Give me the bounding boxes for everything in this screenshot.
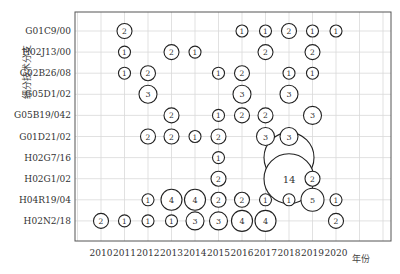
- data-bubble: 1: [307, 67, 319, 79]
- y-tick-label: G01D21/02: [19, 132, 71, 142]
- data-bubble: 1: [213, 67, 225, 79]
- data-bubble: 1: [283, 67, 295, 79]
- data-bubble: 3: [139, 85, 157, 103]
- x-axis-ticks: 2010201120122013201420152016201720182019…: [90, 248, 348, 258]
- y-tick-label: G01C9/00: [25, 26, 71, 36]
- bubble-value: 2: [263, 48, 268, 57]
- data-bubble: 2: [235, 192, 250, 207]
- data-bubble: 2: [305, 45, 320, 60]
- bubble-value: 3: [192, 217, 197, 226]
- data-bubble: 4: [232, 210, 253, 231]
- data-bubble: 1: [142, 194, 154, 206]
- x-tick-label: 2010: [90, 248, 113, 258]
- data-bubble: 2: [235, 66, 250, 81]
- bubble-value: 1: [334, 196, 339, 205]
- bubble-value: 4: [169, 196, 174, 205]
- bubble-value: 14: [283, 174, 296, 185]
- x-tick-label: 2013: [160, 248, 183, 258]
- data-bubble: 2: [141, 129, 156, 144]
- data-bubble: 1: [166, 215, 178, 227]
- data-bubble: 2: [282, 24, 297, 39]
- bubble-value: 3: [145, 90, 150, 99]
- bubble-value: 1: [122, 217, 127, 226]
- bubble-value: 2: [216, 175, 221, 184]
- bubble-value: 1: [122, 48, 127, 57]
- bubble-value: 4: [263, 217, 268, 226]
- bubble-value: 2: [169, 133, 174, 142]
- bubble-value: 2: [240, 111, 245, 120]
- bubble-value: 1: [310, 69, 315, 78]
- data-bubble: 4: [185, 189, 206, 210]
- x-tick-label: 2020: [325, 248, 348, 258]
- data-bubble: 5: [301, 188, 324, 211]
- bubble-value: 1: [216, 154, 221, 163]
- bubble-value: 2: [99, 217, 104, 226]
- bubble-value: 3: [239, 90, 244, 99]
- x-axis-label: 年份: [352, 253, 370, 264]
- bubble-value: 2: [240, 196, 245, 205]
- data-bubble: 2: [141, 66, 156, 81]
- bubble-value: 4: [192, 196, 197, 205]
- bubble-value: 5: [310, 196, 315, 205]
- bubble-chart: G01C9/00H02J13/00G02B26/08G05D1/02G05B19…: [0, 0, 400, 274]
- bubble-value: 2: [146, 69, 151, 78]
- data-bubble: 2: [211, 129, 226, 144]
- bubble-value: 2: [216, 133, 221, 142]
- x-tick-label: 2016: [231, 248, 254, 258]
- data-bubble: 1: [213, 109, 225, 121]
- bubble-value: 1: [169, 217, 174, 226]
- bubble-value: 1: [146, 196, 151, 205]
- bubble-value: 1: [216, 111, 221, 120]
- bubble-value: 1: [193, 48, 198, 57]
- bubble-value: 2: [240, 69, 245, 78]
- data-bubble: 1: [189, 131, 201, 143]
- bubble-value: 4: [239, 217, 244, 226]
- x-tick-label: 2017: [254, 248, 277, 258]
- data-bubble: 1: [330, 194, 342, 206]
- data-bubble: 2: [329, 213, 344, 228]
- bubble-value: 1: [310, 27, 315, 36]
- data-bubble: 1: [142, 215, 154, 227]
- bubble-value: 1: [263, 27, 268, 36]
- data-bubble: 2: [164, 45, 179, 60]
- bubble-value: 2: [146, 133, 151, 142]
- data-bubble: 2: [305, 171, 320, 186]
- data-bubble: 1: [236, 25, 248, 37]
- bubble-value: 2: [169, 48, 174, 57]
- x-tick-label: 2012: [137, 248, 160, 258]
- y-tick-label: H02G1/02: [24, 174, 71, 184]
- y-axis-label: 细分技术分支: [21, 45, 32, 99]
- data-bubble: 2: [164, 108, 179, 123]
- data-bubble: 2: [258, 108, 273, 123]
- data-bubble: 3: [210, 212, 228, 230]
- y-tick-label: H02G7/16: [24, 153, 71, 163]
- data-bubble: 2: [94, 213, 109, 228]
- data-bubble: 2: [211, 192, 226, 207]
- y-tick-label: H02N2/18: [24, 216, 72, 226]
- x-tick-label: 2019: [301, 248, 324, 258]
- bubble-value: 1: [216, 69, 221, 78]
- data-bubble: 3: [233, 85, 251, 103]
- data-bubble: 1: [213, 152, 225, 164]
- data-bubble: 1: [260, 25, 272, 37]
- data-bubble: 2: [117, 24, 132, 39]
- bubble-value: 2: [334, 217, 339, 226]
- data-bubble: 3: [257, 128, 275, 146]
- data-bubble: 1: [119, 215, 131, 227]
- bubble-value: 2: [310, 175, 315, 184]
- bubble-value: 3: [263, 133, 268, 142]
- bubble-value: 2: [122, 27, 127, 36]
- bubble-value: 1: [263, 196, 268, 205]
- bubble-value: 2: [169, 111, 174, 120]
- data-bubble: 3: [280, 128, 298, 146]
- data-bubble: 4: [161, 189, 182, 210]
- data-bubble: 1: [283, 194, 295, 206]
- bubble-value: 1: [122, 69, 127, 78]
- data-bubble: 1: [189, 46, 201, 58]
- bubble-value: 1: [287, 196, 292, 205]
- data-bubble: 1: [260, 194, 272, 206]
- data-bubble: 2: [164, 129, 179, 144]
- bubble-value: 1: [193, 133, 198, 142]
- y-tick-label: H04R19/04: [19, 195, 71, 205]
- x-tick-label: 2011: [113, 248, 136, 258]
